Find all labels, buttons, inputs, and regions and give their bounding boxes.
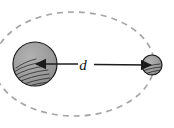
diagram-canvas: d — [0, 0, 174, 128]
separation-arrow — [36, 64, 151, 65]
orbit-separation-diagram: d — [0, 0, 174, 128]
large-body — [13, 42, 57, 89]
separation-label: d — [79, 57, 87, 73]
separation-arrow-right-half — [94, 65, 151, 66]
